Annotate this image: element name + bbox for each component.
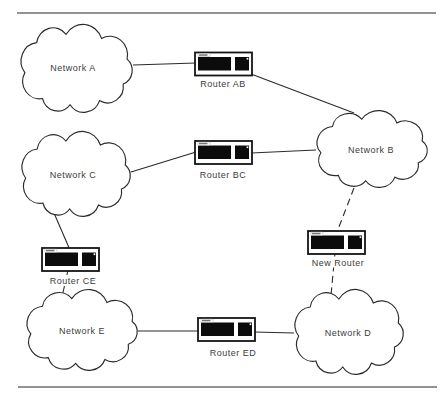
router-ce-node: Router CE [42, 248, 100, 286]
router-bc-node: Router BC [195, 141, 252, 180]
link-network-a-router-ab [133, 63, 196, 65]
router-ed-label: Router ED [210, 348, 257, 358]
link-router-bc-network-b [251, 150, 316, 153]
network-a-node: Network A [21, 24, 132, 112]
router-ed-node: Router ED [198, 318, 256, 358]
new-router-icon [308, 231, 365, 254]
router-ab-label: Router AB [200, 79, 246, 89]
link-network-c-router-bc [131, 152, 196, 172]
link-network-c-router-ce [54, 213, 70, 250]
diagram-canvas: Network A Network C Network B Network E … [0, 0, 448, 395]
router-ab-node: Router AB [195, 53, 252, 90]
network-diagram-figure: Network A Network C Network B Network E … [0, 0, 448, 395]
network-e-label: Network E [59, 326, 105, 336]
network-c-label: Network C [50, 170, 97, 180]
router-ab-icon [195, 53, 252, 76]
router-ce-icon [42, 248, 99, 271]
network-b-node: Network B [317, 111, 427, 188]
link-router-ed-network-d [254, 332, 294, 333]
router-bc-label: Router BC [200, 170, 247, 180]
new-router-node: New Router [308, 231, 365, 268]
network-d-node: Network D [295, 289, 403, 374]
network-e-node: Network E [27, 290, 137, 371]
network-b-label: Network B [348, 145, 394, 155]
network-d-label: Network D [325, 328, 372, 338]
router-ed-icon [198, 318, 255, 341]
link-network-b-new-router-dashed [337, 188, 354, 232]
network-a-label: Network A [50, 63, 96, 73]
network-c-node: Network C [22, 131, 130, 216]
router-ce-label: Router CE [50, 276, 97, 286]
link-router-ab-network-b [251, 74, 354, 113]
new-router-label: New Router [312, 258, 365, 268]
router-bc-icon [195, 141, 252, 164]
